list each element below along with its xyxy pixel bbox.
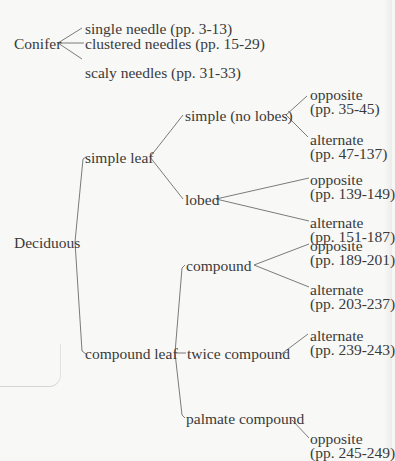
leaf-compound-alternate: alternate (pp. 203-237): [310, 283, 395, 310]
connector-conifer-scaly: [58, 43, 82, 59]
leaf-noLobes-alternate: alternate (pp. 47-137): [310, 133, 388, 160]
leaf-pages: (pp. 47-137): [310, 147, 388, 161]
node-deciduous: Deciduous: [14, 235, 80, 250]
node-palmate-compound: palmate compound: [186, 411, 304, 426]
connector-lobed-opposite: [216, 178, 309, 199]
node-scaly-needles: scaly needles (pp. 31-33): [85, 65, 241, 80]
leaf-noLobes-opposite: opposite (pp. 35-45): [310, 88, 380, 115]
node-conifer: Conifer: [14, 36, 61, 51]
leaf-pages: (pp. 245-249): [310, 446, 395, 460]
node-single-needle: single needle (pp. 3-13): [85, 21, 232, 36]
connector-deciduous-simple: [75, 157, 86, 242]
leaf-palmate-opposite: opposite (pp. 245-249): [310, 432, 395, 459]
connector-compoundLeaf-palmate: [175, 353, 185, 418]
leaf-lobed-opposite: opposite (pp. 139-149): [310, 173, 395, 200]
node-compound: compound: [186, 258, 251, 273]
connector-compound-alternate: [254, 265, 309, 287]
connector-lobed-alternate: [216, 199, 309, 221]
leaf-pages: (pp. 203-237): [310, 297, 395, 311]
node-simple-no-lobes: simple (no lobes): [185, 108, 293, 123]
leaf-pages: (pp. 239-243): [310, 343, 395, 357]
node-clustered-needles: clustered needles (pp. 15-29): [85, 36, 265, 51]
connector-conifer-single: [58, 28, 82, 43]
leaf-pages: (pp. 139-149): [310, 187, 395, 201]
connector-simple-lobed: [150, 157, 183, 199]
node-simple-leaf: simple leaf: [85, 150, 153, 165]
leaf-pages: (pp. 35-45): [310, 102, 380, 116]
connector-deciduous-compound: [75, 242, 86, 354]
connector-compound-opposite: [254, 244, 309, 265]
node-lobed: lobed: [185, 192, 219, 207]
node-twice-compound: twice compound: [187, 346, 290, 361]
connector-compoundLeaf-compound: [175, 265, 185, 353]
leaf-twice-alternate: alternate (pp. 239-243): [310, 329, 395, 356]
node-compound-leaf: compound leaf: [85, 346, 178, 361]
leaf-pages: (pp. 189-201): [310, 253, 395, 267]
connector-simple-noLobes: [150, 115, 183, 157]
leaf-compound-opposite: opposite (pp. 189-201): [310, 239, 395, 266]
